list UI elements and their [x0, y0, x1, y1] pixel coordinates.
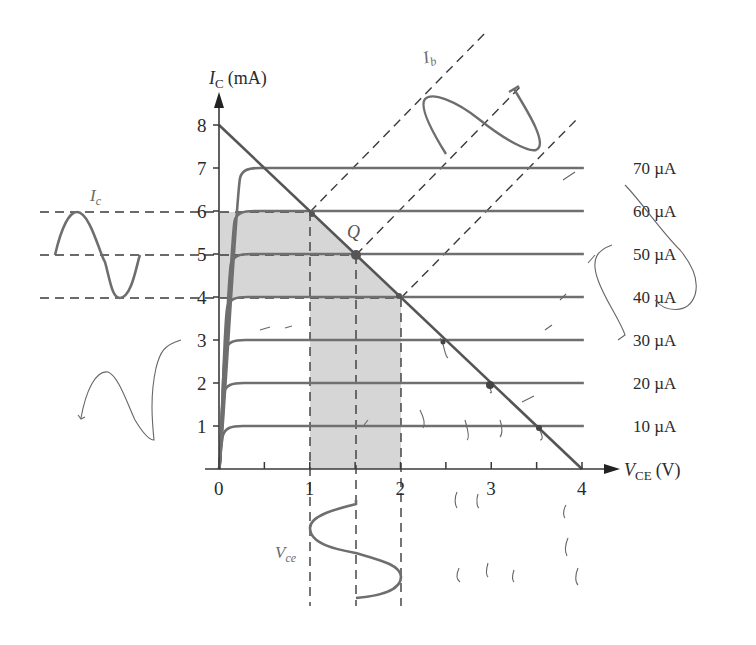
curve-label: 20 µA [633, 374, 677, 393]
diagram-canvas: 12345678 01234 IC(mA) VCE(V) 10 µA20 µA3… [0, 0, 756, 645]
ib-curve [219, 426, 584, 469]
y-tick-label: 1 [197, 416, 207, 437]
y-axis-title: IC(mA) [208, 68, 267, 91]
curve-label: 70 µA [633, 159, 677, 178]
x-tick-label: 1 [305, 478, 315, 499]
curve-label: 60 µA [633, 202, 677, 221]
curve-label: 30 µA [633, 331, 677, 350]
x-tick-label: 4 [577, 478, 587, 499]
y-tick-label: 7 [197, 158, 207, 179]
y-tick-label: 4 [197, 287, 207, 308]
x-tick-label: 2 [396, 478, 406, 499]
y-tick-label: 8 [197, 115, 207, 136]
y-axis-ticks: 12345678 [197, 115, 219, 437]
y-tick-label: 5 [197, 244, 207, 265]
swing-point-upper [309, 211, 315, 217]
x-axis-arrow-icon [604, 464, 620, 474]
y-tick-label: 3 [197, 330, 207, 351]
curve-labels: 10 µA20 µA30 µA40 µA50 µA60 µA70 µA [633, 159, 677, 436]
q-point-label: Q [347, 222, 360, 242]
curve-label: 10 µA [633, 417, 677, 436]
curve-label: 50 µA [633, 245, 677, 264]
y-tick-label: 2 [197, 373, 207, 394]
q-point-marker [351, 250, 361, 260]
y-tick-label: 6 [197, 201, 207, 222]
x-axis-ticks: 01234 [214, 462, 587, 499]
ib-waveform [423, 86, 539, 154]
ic-waveform-label: Ic [89, 186, 102, 208]
x-tick-label: 3 [486, 478, 496, 499]
x-axis-title: VCE(V) [624, 460, 681, 483]
x-tick-label: 0 [214, 478, 224, 499]
swing-point-lower [396, 293, 402, 299]
y-axis-arrow-icon [214, 92, 224, 108]
ic-waveform [55, 212, 140, 298]
curve-label: 40 µA [633, 288, 677, 307]
vce-waveform-label: Vce [275, 543, 297, 565]
characteristics-plot: 12345678 01234 IC(mA) VCE(V) 10 µA20 µA3… [0, 0, 756, 645]
ib-waveform-label: Ib [420, 46, 438, 71]
